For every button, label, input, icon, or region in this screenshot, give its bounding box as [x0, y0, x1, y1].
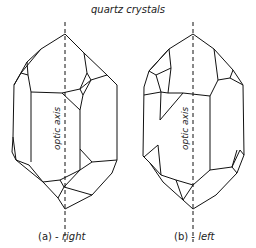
crystal-b-left	[143, 22, 244, 242]
crystal-a-right	[12, 22, 117, 242]
caption-a-handedness: right	[62, 231, 86, 242]
crystal-drawings	[0, 0, 256, 248]
optic-axis-label-b: optic axis	[180, 107, 190, 150]
caption-a-prefix: (a) -	[38, 231, 62, 242]
optic-axis-label-a: optic axis	[52, 107, 62, 150]
caption-b: (b) - left	[174, 231, 215, 242]
caption-a: (a) - right	[38, 231, 85, 242]
caption-b-handedness: left	[198, 231, 214, 242]
caption-b-prefix: (b) -	[174, 231, 198, 242]
